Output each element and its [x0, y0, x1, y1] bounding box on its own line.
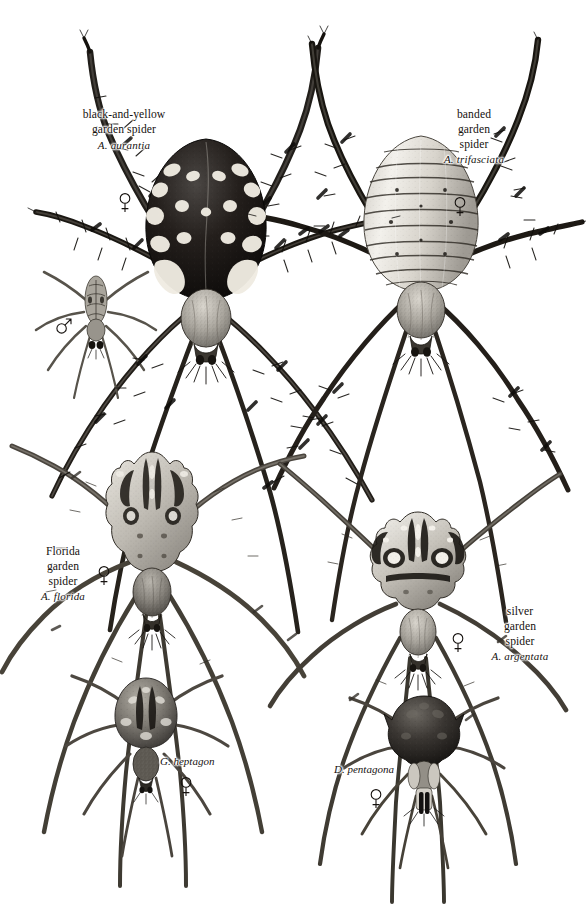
common-name-line-3: spider — [22, 575, 104, 590]
common-name-line-1: banded — [420, 108, 528, 123]
female-symbol-florida — [96, 565, 112, 587]
female-symbol-argentata — [450, 632, 466, 654]
body-trifasciata-female — [364, 136, 478, 376]
common-name-line-1: black-and-yellow — [50, 108, 198, 123]
body-aurantia-male — [85, 276, 107, 359]
body-aurantia-female — [146, 139, 266, 384]
female-symbol-trifasciata — [452, 196, 468, 218]
scientific-name-aurantia: A. aurantia — [98, 139, 150, 151]
female-symbol-gea — [178, 776, 194, 798]
illustration-plate: black-and-yellow garden spider A. aurant… — [0, 0, 586, 924]
common-name-line-3: spider — [478, 635, 562, 650]
scientific-name-florida: A. florida — [41, 590, 85, 602]
scientific-name-trifasciata: A. trifasciata — [444, 153, 504, 165]
common-name-line-2: garden spider — [50, 123, 198, 138]
common-name-line-2: garden — [22, 560, 104, 575]
label-florida-garden-spider: Florida garden spider A. florida — [22, 545, 104, 605]
common-name-line-3: spider — [420, 138, 528, 153]
common-name-line-1: silver — [478, 605, 562, 620]
common-name-line-2: garden — [478, 620, 562, 635]
scientific-name-d-pentagona: D. pentagona — [334, 763, 394, 775]
female-symbol-pentagona — [368, 788, 384, 810]
female-symbol-aurantia — [117, 192, 133, 214]
common-name-line-1: Florida — [22, 545, 104, 560]
label-black-and-yellow-garden-spider: black-and-yellow garden spider A. aurant… — [50, 108, 198, 153]
scientific-name-argentata: A. argentata — [492, 650, 549, 662]
label-silver-garden-spider: silver garden spider A. argentata — [478, 605, 562, 665]
scientific-name-gea-heptagon: G. heptagon — [160, 755, 214, 767]
common-name-line-2: garden — [420, 123, 528, 138]
male-symbol-aurantia — [54, 316, 74, 336]
label-banded-garden-spider: banded garden spider A. trifasciata — [420, 108, 528, 168]
